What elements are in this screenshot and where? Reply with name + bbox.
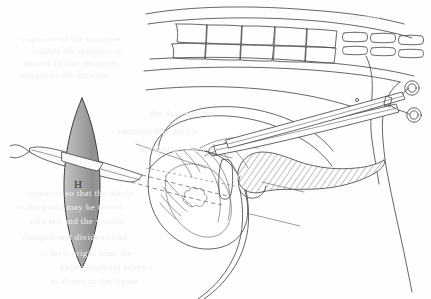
hatched-organ-group: [238, 152, 385, 198]
vertebral-column-group: [144, 7, 424, 82]
illustration-canvas: H: [0, 0, 431, 299]
surgical-illustration-figure: operativeexposure of the structurevisibl…: [0, 0, 431, 299]
lens-marker-group: H: [62, 98, 103, 268]
lens-label-h: H: [74, 178, 82, 190]
